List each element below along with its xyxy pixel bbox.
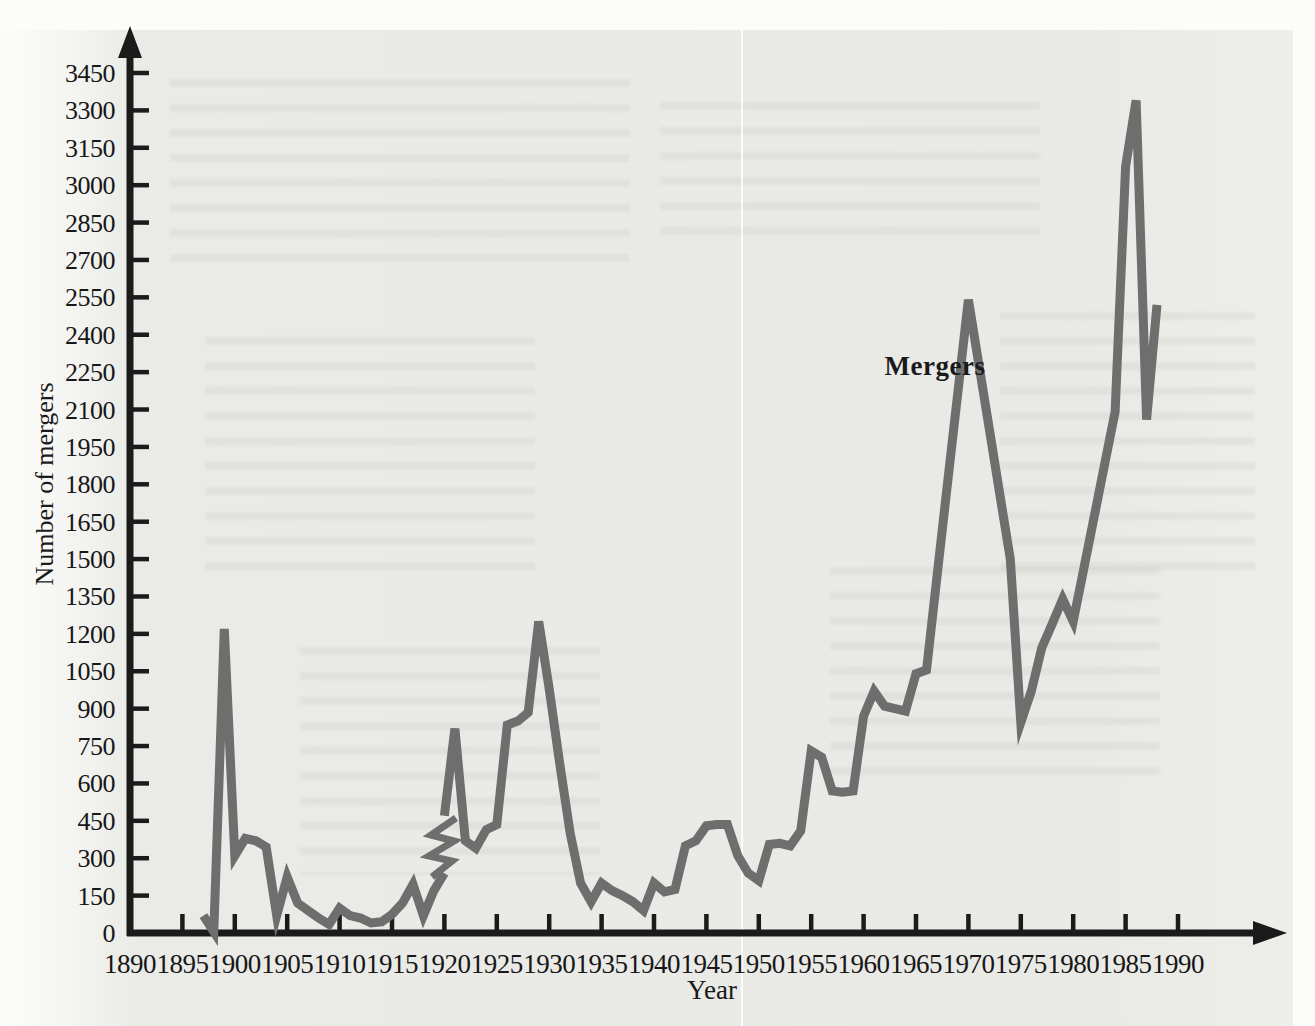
x-tick-label: 1940 xyxy=(628,949,680,979)
y-tick-label: 2100 xyxy=(65,396,116,425)
y-tick-label: 450 xyxy=(78,807,116,836)
y-tick-label: 1800 xyxy=(65,470,116,499)
x-tick-label: 1985 xyxy=(1100,949,1152,979)
y-tick-label: 2550 xyxy=(65,283,116,312)
x-tick-label: 1890 xyxy=(104,949,156,979)
y-tick-label: 1950 xyxy=(65,433,116,462)
y-axis-title: Number of mergers xyxy=(30,382,60,585)
x-tick-label: 1930 xyxy=(523,949,575,979)
scanned-textbook-page: 1890189519001905191019151920192519301935… xyxy=(0,0,1315,1026)
y-tick-label: 3300 xyxy=(65,96,116,125)
x-tick-label: 1925 xyxy=(471,949,523,979)
y-tick-label: 1050 xyxy=(65,657,116,686)
x-tick-label: 1955 xyxy=(785,949,837,979)
x-tick-label: 1900 xyxy=(209,949,261,979)
y-tick-label: 3450 xyxy=(65,59,116,88)
x-tick-label: 1935 xyxy=(576,949,628,979)
y-tick-label: 900 xyxy=(78,695,116,724)
y-tick-label: 2850 xyxy=(65,209,116,238)
x-tick-label: 1960 xyxy=(838,949,890,979)
y-tick-label: 150 xyxy=(78,882,116,911)
x-tick-label: 1970 xyxy=(942,949,994,979)
series-annotation-label: Mergers xyxy=(885,351,986,382)
x-tick-label: 1980 xyxy=(1047,949,1099,979)
y-tick-label: 600 xyxy=(78,769,116,798)
y-tick-label: 2700 xyxy=(65,246,116,275)
x-axis-arrow-icon xyxy=(1253,921,1287,945)
x-axis-title: Year xyxy=(687,975,737,1006)
x-tick-label: 1975 xyxy=(995,949,1047,979)
x-tick-label: 1990 xyxy=(1152,949,1204,979)
series-break-zigzag-icon xyxy=(429,818,456,877)
x-tick-label: 1895 xyxy=(156,949,208,979)
y-tick-label: 2400 xyxy=(65,321,116,350)
y-tick-label: 300 xyxy=(78,844,116,873)
merger-series-line-2 xyxy=(444,100,1157,910)
x-tick-label: 1965 xyxy=(890,949,942,979)
y-tick-label: 750 xyxy=(78,732,116,761)
x-tick-label: 1905 xyxy=(261,949,313,979)
y-axis-arrow-icon xyxy=(118,26,142,58)
x-tick-label: 1915 xyxy=(366,949,418,979)
x-tick-label: 1920 xyxy=(418,949,470,979)
x-tick-label: 1950 xyxy=(733,949,785,979)
y-tick-label: 0 xyxy=(103,919,116,948)
mergers-line-chart: 1890189519001905191019151920192519301935… xyxy=(0,0,1315,1026)
y-tick-label: 3000 xyxy=(65,171,116,200)
y-tick-label: 2250 xyxy=(65,358,116,387)
x-tick-label: 1910 xyxy=(314,949,366,979)
y-tick-label: 1650 xyxy=(65,508,116,537)
y-tick-label: 1350 xyxy=(65,582,116,611)
y-tick-label: 3150 xyxy=(65,134,116,163)
merger-series-line-1 xyxy=(203,629,444,932)
y-tick-label: 1200 xyxy=(65,620,116,649)
y-tick-label: 1500 xyxy=(65,545,116,574)
